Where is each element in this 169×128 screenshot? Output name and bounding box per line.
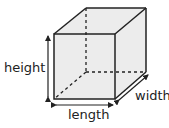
length-label: length (68, 108, 109, 121)
height-label: height (4, 61, 45, 74)
width-label: width (135, 89, 169, 102)
cube-faces (54, 8, 146, 99)
